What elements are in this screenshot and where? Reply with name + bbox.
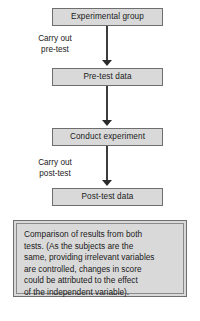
flowchart-node-conduct-experiment: Conduct experiment — [52, 128, 163, 146]
edge-label-carry-out-pre-test: Carry out pre-test — [14, 33, 96, 55]
node-label: Experimental group — [71, 13, 144, 21]
conclusion-panel: Comparison of results from both tests. (… — [13, 220, 187, 297]
arrowhead-down-icon-1 — [102, 60, 112, 66]
arrowhead-down-icon-2 — [102, 120, 112, 126]
arrowhead-down-icon-3 — [102, 180, 112, 186]
flowchart-diagram: Experimental group Carry out pre-test Pr… — [0, 0, 200, 321]
node-label: Pre-test data — [83, 73, 131, 81]
flowchart-node-post-test-data: Post-test data — [52, 188, 163, 206]
flowchart-node-experimental-group: Experimental group — [52, 8, 163, 26]
connector-arrow-line-1 — [106, 26, 108, 61]
conclusion-panel-inner: Comparison of results from both tests. (… — [16, 223, 184, 294]
conclusion-line: of the independent variable). — [24, 287, 176, 299]
conclusion-line: Comparison of results from both — [24, 229, 176, 241]
edge-label-line-2: post-test — [14, 168, 96, 179]
edge-label-line-2: pre-test — [14, 44, 96, 55]
node-label: Post-test data — [82, 193, 134, 201]
edge-label-carry-out-post-test: Carry out post-test — [14, 157, 96, 179]
connector-arrow-line-3 — [106, 146, 108, 181]
conclusion-line: could be attributed to the effect — [24, 275, 176, 287]
conclusion-line: same, providing irrelevant variables — [24, 252, 176, 264]
connector-arrow-line-2 — [106, 86, 108, 121]
conclusion-line: tests. (As the subjects are the — [24, 241, 176, 253]
flowchart-node-pre-test-data: Pre-test data — [52, 68, 163, 86]
edge-label-line-1: Carry out — [14, 33, 96, 44]
conclusion-text: Comparison of results from both tests. (… — [24, 229, 176, 299]
edge-label-line-1: Carry out — [14, 157, 96, 168]
node-label: Conduct experiment — [70, 133, 145, 141]
conclusion-line: are controlled, changes in score — [24, 264, 176, 276]
